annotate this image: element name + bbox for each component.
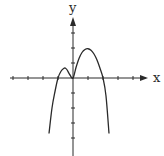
y-axis-label: y (68, 0, 77, 15)
function-curve (49, 49, 109, 134)
y-axis-arrow-icon (70, 17, 76, 26)
x-axis-arrow-icon (140, 75, 148, 81)
x-axis (10, 75, 148, 81)
x-axis-label: x (153, 70, 161, 85)
function-graph: x y (0, 0, 164, 156)
y-axis (70, 17, 76, 156)
